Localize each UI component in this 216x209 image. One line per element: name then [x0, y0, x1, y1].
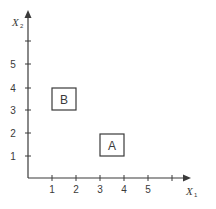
- svg-text:2: 2: [20, 23, 24, 29]
- x-tick-labels: 1 2 3 4 5: [49, 184, 151, 195]
- region-b: B: [52, 88, 76, 110]
- x-tick-label: 4: [121, 184, 127, 195]
- svg-text:X: X: [11, 16, 20, 28]
- y-axis-arrow-icon: [25, 10, 32, 18]
- y-tick-label: 1: [10, 151, 16, 162]
- region-a-label: A: [108, 139, 116, 153]
- y-tick-label: 5: [10, 59, 16, 70]
- y-tick-label: 4: [10, 83, 16, 94]
- x-tick-label: 5: [145, 184, 151, 195]
- svg-text:1: 1: [194, 192, 198, 198]
- x-tick-label: 1: [49, 184, 55, 195]
- y-tick-label: 3: [10, 105, 16, 116]
- x-tick-label: 2: [73, 184, 79, 195]
- svg-text:X: X: [185, 185, 194, 197]
- x-tick-label: 3: [97, 184, 103, 195]
- x-axis-label: X 1: [185, 185, 198, 198]
- y-tick-label: 2: [10, 128, 16, 139]
- coordinate-diagram: 1 2 3 4 5 1 2 3 4 5 X 2 X 1 B A: [0, 0, 216, 209]
- y-tick-labels: 1 2 3 4 5: [10, 59, 16, 162]
- region-b-label: B: [60, 93, 68, 107]
- y-axis-label: X 2: [11, 16, 24, 29]
- region-a: A: [100, 134, 124, 156]
- x-axis-arrow-icon: [183, 175, 191, 182]
